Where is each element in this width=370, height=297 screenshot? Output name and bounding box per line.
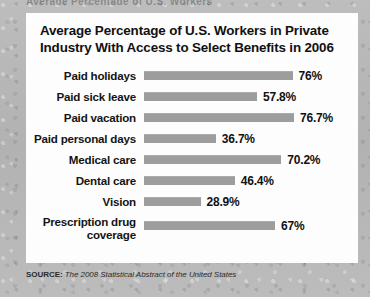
bar bbox=[144, 71, 293, 80]
chart-title-line-2: Industry With Access to Select Benefits … bbox=[40, 40, 344, 57]
page-bleed-text: Average Percentage of U.S. Workers bbox=[26, 0, 212, 5]
bar-area: 36.7% bbox=[144, 128, 352, 149]
page-background: Average Percentage of U.S. Workers Avera… bbox=[0, 0, 370, 297]
bar-value-label: 76% bbox=[299, 69, 322, 83]
source-prefix: SOURCE: bbox=[26, 270, 63, 279]
chart-title-line-1: Average Percentage of U.S. Workers in Pr… bbox=[40, 23, 344, 40]
bar-area: 70.2% bbox=[144, 149, 352, 170]
table-row: Paid vacation76.7% bbox=[26, 107, 352, 128]
bar-label-line-1: Prescription drug bbox=[43, 215, 136, 228]
bar-label: Prescription drugcoverage bbox=[26, 212, 144, 241]
source-note: SOURCE: The 2008 Statistical Abstract of… bbox=[26, 270, 236, 279]
bar-value-label: 70.2% bbox=[287, 153, 320, 167]
bar-chart-rows: Paid holidays76%Paid sick leave57.8%Paid… bbox=[26, 65, 358, 244]
bar bbox=[144, 134, 216, 143]
bar bbox=[144, 221, 275, 230]
bar-label: Paid vacation bbox=[26, 111, 144, 124]
bar-label-line-1: Dental care bbox=[76, 174, 136, 187]
bar-value-label: 28.9% bbox=[207, 195, 240, 209]
bar-label-line-1: Paid personal days bbox=[34, 132, 136, 145]
bar-label-line-1: Paid sick leave bbox=[56, 90, 136, 103]
bar-label: Medical care bbox=[26, 153, 144, 166]
bar bbox=[144, 176, 235, 185]
bar bbox=[144, 92, 257, 101]
table-row: Paid sick leave57.8% bbox=[26, 86, 352, 107]
bar-area: 67% bbox=[144, 212, 352, 236]
bar-label-line-1: Medical care bbox=[69, 153, 136, 166]
bar-value-label: 67% bbox=[281, 219, 304, 233]
bar-label: Vision bbox=[26, 195, 144, 208]
bar-area: 28.9% bbox=[144, 191, 352, 212]
bar-area: 57.8% bbox=[144, 86, 352, 107]
table-row: Dental care46.4% bbox=[26, 170, 352, 191]
bar bbox=[144, 113, 294, 122]
bar-area: 76% bbox=[144, 65, 352, 86]
bar-value-label: 76.7% bbox=[300, 111, 333, 125]
bar-label-line-1: Paid vacation bbox=[64, 111, 136, 124]
bar-value-label: 57.8% bbox=[263, 90, 296, 104]
bar-area: 46.4% bbox=[144, 170, 352, 191]
table-row: Medical care70.2% bbox=[26, 149, 352, 170]
bar bbox=[144, 197, 201, 206]
bar-label-line-2: coverage bbox=[26, 228, 136, 241]
bar-value-label: 36.7% bbox=[222, 132, 255, 146]
table-row: Paid holidays76% bbox=[26, 65, 352, 86]
bar-label-line-1: Paid holidays bbox=[64, 69, 136, 82]
source-publication: The 2008 Statistical Abstract of the Uni… bbox=[65, 270, 237, 279]
bar-label-line-1: Vision bbox=[103, 195, 136, 208]
chart-title: Average Percentage of U.S. Workers in Pr… bbox=[26, 13, 358, 56]
bar-label: Paid holidays bbox=[26, 69, 144, 82]
bar-label: Dental care bbox=[26, 174, 144, 187]
bar bbox=[144, 155, 281, 164]
bar-label: Paid sick leave bbox=[26, 90, 144, 103]
table-row: Paid personal days36.7% bbox=[26, 128, 352, 149]
table-row: Prescription drugcoverage67% bbox=[26, 212, 352, 244]
bar-value-label: 46.4% bbox=[241, 174, 274, 188]
bar-label: Paid personal days bbox=[26, 132, 144, 145]
table-row: Vision28.9% bbox=[26, 191, 352, 212]
chart-card: Average Percentage of U.S. Workers in Pr… bbox=[26, 13, 358, 263]
bar-area: 76.7% bbox=[144, 107, 352, 128]
